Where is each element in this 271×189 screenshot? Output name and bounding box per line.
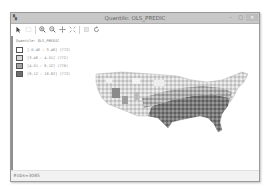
zoom-in-icon bbox=[39, 26, 46, 33]
toolbar-separator bbox=[79, 26, 80, 34]
legend-label: [3.46 : 4.51] (772) bbox=[27, 56, 68, 60]
zoom-out-icon bbox=[49, 26, 56, 33]
toolbar-separator bbox=[35, 26, 36, 34]
legend-label: [-0.46 : 3.46] (772) bbox=[27, 48, 70, 52]
window-title: Quantile: OLS_PREDIC bbox=[11, 14, 259, 22]
fit-extent-icon bbox=[69, 26, 76, 33]
map-canvas[interactable] bbox=[82, 36, 259, 170]
legend-label: [6.12 : 18.82] (772) bbox=[27, 72, 70, 76]
refresh-button[interactable] bbox=[92, 26, 100, 34]
close-button[interactable]: ✕ bbox=[246, 14, 258, 21]
legend-label: [4.51 : 6.12] (770) bbox=[27, 64, 68, 68]
legend-swatch bbox=[16, 55, 23, 61]
title-bar[interactable]: ▚ Quantile: OLS_PREDIC – □ ✕ bbox=[11, 13, 259, 24]
pan-icon bbox=[59, 26, 66, 33]
arrow-pointer-icon bbox=[15, 26, 22, 33]
select-rect-button[interactable] bbox=[24, 26, 32, 34]
us-county-map bbox=[82, 36, 259, 170]
zoom-in-button[interactable] bbox=[38, 26, 46, 34]
legend-swatch bbox=[16, 63, 23, 69]
legend-item[interactable]: [-0.46 : 3.46] (772) bbox=[16, 46, 70, 53]
select-rect-icon bbox=[25, 26, 32, 33]
status-bar: #obs=3085 bbox=[11, 170, 259, 181]
map-window: ▚ Quantile: OLS_PREDIC – □ ✕ bbox=[10, 12, 260, 182]
layer-button[interactable] bbox=[82, 26, 90, 34]
zoom-out-button[interactable] bbox=[48, 26, 56, 34]
legend-item[interactable]: [4.51 : 6.12] (770) bbox=[16, 62, 68, 69]
pan-button[interactable] bbox=[58, 26, 66, 34]
legend-swatch bbox=[16, 47, 23, 53]
legend-item[interactable]: [3.46 : 4.51] (772) bbox=[16, 54, 68, 61]
refresh-icon bbox=[93, 26, 100, 33]
toolbar bbox=[11, 24, 259, 35]
select-tool-button[interactable] bbox=[14, 26, 22, 34]
layer-icon bbox=[83, 26, 90, 33]
legend-swatch bbox=[16, 71, 23, 77]
minimize-button[interactable]: – bbox=[226, 14, 235, 21]
obs-count: #obs=3085 bbox=[13, 173, 40, 178]
legend-title: Quantile: OLS_PREDIC bbox=[16, 39, 59, 43]
fit-extent-button[interactable] bbox=[68, 26, 76, 34]
legend-panel[interactable]: Quantile: OLS_PREDIC [-0.46 : 3.46] (772… bbox=[11, 36, 84, 170]
maximize-button[interactable]: □ bbox=[236, 14, 245, 21]
legend-item[interactable]: [6.12 : 18.82] (772) bbox=[16, 70, 70, 77]
